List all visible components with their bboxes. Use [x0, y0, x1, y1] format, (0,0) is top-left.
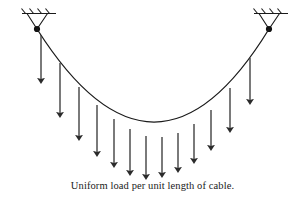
figure-caption: Uniform load per unit length of cable.	[0, 180, 305, 191]
cable-diagram-svg	[0, 0, 305, 201]
cable-load-figure: Uniform load per unit length of cable.	[0, 0, 305, 201]
right-support-hatching	[254, 9, 282, 14]
cable-curve	[37, 29, 269, 122]
right-support	[254, 9, 289, 33]
uniform-load-arrows	[41, 35, 250, 175]
left-support-hatching	[22, 9, 50, 14]
left-support	[22, 9, 57, 33]
